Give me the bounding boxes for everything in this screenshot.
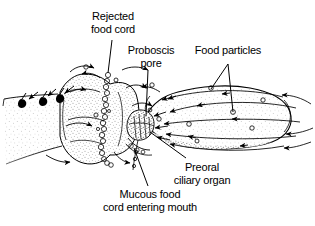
label-food-particles: Food particles <box>183 44 273 57</box>
leader-proboscis-pore <box>146 70 148 116</box>
label-proboscis-pore-line1: Proboscis <box>120 44 182 57</box>
preoral-ciliary-organ <box>126 110 154 155</box>
label-rejected-food-cord: Rejected food cord <box>77 10 149 35</box>
leader-rejected-food-cord <box>108 40 112 73</box>
label-food-particles-line1: Food particles <box>183 44 273 57</box>
label-mucous-food-cord: Mucous food cord entering mouth <box>80 188 220 213</box>
feeding-diagram-figure: Rejected food cord Proboscis pore Food p… <box>0 0 315 226</box>
label-rejected-food-cord-line1: Rejected <box>77 10 149 23</box>
label-preoral-ciliary-organ-line1: Preoral <box>161 161 243 174</box>
label-preoral-ciliary-organ-line2: ciliary organ <box>161 174 243 187</box>
mucous-food-cord <box>132 140 138 170</box>
label-proboscis-pore: Proboscis pore <box>120 44 182 69</box>
label-mucous-food-cord-line2: cord entering mouth <box>80 201 220 214</box>
label-mucous-food-cord-line1: Mucous food <box>80 188 220 201</box>
label-preoral-ciliary-organ: Preoral ciliary organ <box>161 161 243 186</box>
label-proboscis-pore-line2: pore <box>120 57 182 70</box>
leader-food-particles-left <box>211 64 228 89</box>
label-rejected-food-cord-line2: food cord <box>77 23 149 36</box>
